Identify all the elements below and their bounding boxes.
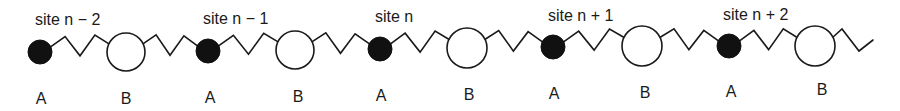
spring	[739, 29, 798, 50]
spring	[50, 35, 110, 56]
atom-label: B	[464, 86, 475, 103]
atom-b-open-circle	[447, 28, 487, 68]
atom-label: B	[640, 84, 651, 101]
diatomic-chain-diagram: site n − 2site n − 1site nsite n + 1site…	[0, 0, 900, 111]
site-label: site n + 2	[723, 6, 788, 23]
atom-b-open-circle	[622, 26, 662, 66]
spring	[390, 31, 450, 52]
site-labels: site n − 2site n − 1site nsite n + 1site…	[35, 6, 788, 28]
site-label: site n + 1	[548, 7, 613, 24]
atom-label: B	[121, 90, 132, 107]
atom-a-filled-circle	[196, 39, 220, 63]
atom-b-open-circle	[795, 26, 835, 66]
atom-label: A	[376, 87, 387, 104]
site-label: site n − 1	[203, 10, 268, 27]
spring	[142, 35, 198, 55]
atom-label: A	[726, 83, 737, 100]
atom-a-filled-circle	[28, 40, 52, 64]
atom-label: A	[36, 90, 47, 107]
spring-end	[832, 29, 873, 51]
atom-a-filled-circle	[717, 34, 741, 58]
atom-labels: ABABABABAB	[36, 81, 828, 107]
atom-label: B	[293, 88, 304, 105]
atom-label: B	[817, 81, 828, 98]
site-label: site n	[375, 8, 413, 25]
spring	[659, 29, 719, 50]
atoms	[28, 26, 835, 71]
spring	[218, 33, 279, 54]
atom-b-open-circle	[276, 31, 314, 69]
atom-b-open-circle	[107, 33, 145, 71]
spring	[311, 33, 370, 53]
site-label: site n − 2	[35, 11, 100, 28]
atom-a-filled-circle	[541, 35, 565, 59]
atom-label: A	[205, 89, 216, 106]
spring	[563, 29, 625, 50]
atom-a-filled-circle	[368, 37, 392, 61]
spring	[484, 31, 543, 52]
atom-label: A	[549, 85, 560, 102]
